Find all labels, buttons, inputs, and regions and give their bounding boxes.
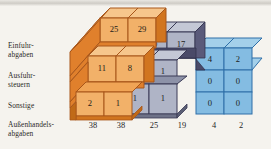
cell-value-orange-einfuhr-col1: 25: [110, 24, 119, 34]
blue-group: 4 2 0 0 0 0: [196, 38, 262, 114]
cell-value-orange-ausfuhr-col2: 8: [128, 63, 132, 73]
cell-value-blue-einfuhr-col2: 2: [236, 54, 240, 64]
cell-value-gray-einfuhr-col2: 17: [177, 39, 186, 49]
cell-value-orange-einfuhr-col2: 29: [138, 24, 147, 34]
cell-value-blue-sonstige-col2: 0: [236, 98, 240, 108]
cell-value-gray-ausfuhr-col2: 1: [161, 66, 165, 76]
cell-value-blue-ausfuhr-col2: 0: [236, 76, 240, 86]
cell-value-orange-sonstige-col2: 1: [116, 98, 120, 108]
cell-value-gray-sonstige-col2: 1: [161, 93, 165, 103]
cell-value-orange-ausfuhr-col1: 11: [98, 63, 106, 73]
cell-value-blue-ausfuhr-col1: 0: [208, 76, 212, 86]
cell-value-orange-sonstige-col1: 2: [88, 98, 92, 108]
cell-value-gray-sonstige-col1: 1: [133, 93, 137, 103]
chart-root: Einfuhr- abgaben Ausfuhr- steuern Sonsti…: [0, 0, 271, 149]
chart-blocks-canvas: 4 2 0 0 0 0 20 17: [0, 0, 271, 149]
cell-value-blue-sonstige-col1: 0: [208, 98, 212, 108]
cell-value-blue-einfuhr-col1: 4: [208, 54, 213, 64]
